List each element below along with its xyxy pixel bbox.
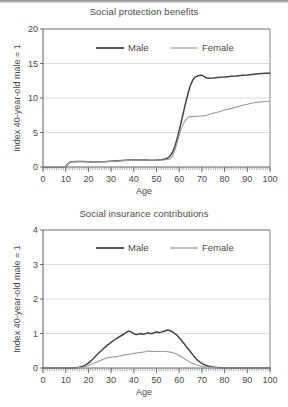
x-tick-label: 70 xyxy=(197,174,207,184)
x-tick-label: 50 xyxy=(151,174,161,184)
scan-artifact-band xyxy=(0,0,288,3)
series-line-male xyxy=(43,330,270,368)
y-tick-label: 20 xyxy=(28,24,38,34)
x-tick-label: 20 xyxy=(83,174,93,184)
x-tick-label: 90 xyxy=(242,375,252,385)
series-line-male xyxy=(43,73,270,167)
x-tick-label: 0 xyxy=(40,174,45,184)
y-tick-label: 1 xyxy=(33,329,38,339)
x-tick-label: 100 xyxy=(262,375,277,385)
legend-label-female: Female xyxy=(202,242,234,253)
legend-label-male: Male xyxy=(128,42,149,53)
y-tick-label: 5 xyxy=(33,128,38,138)
chart-panel-social-insurance-contributions: Social insurance contributions 012340102… xyxy=(0,206,288,407)
y-axis-label-bottom: Index 40-year-old male = 1 xyxy=(12,245,22,352)
x-tick-label: 0 xyxy=(40,375,45,385)
x-tick-label: 40 xyxy=(129,174,139,184)
x-tick-label: 60 xyxy=(174,174,184,184)
x-tick-label: 50 xyxy=(151,375,161,385)
plot-area-top: 051015200102030405060708090100MaleFemale xyxy=(0,4,288,204)
x-tick-label: 90 xyxy=(242,174,252,184)
legend-label-male: Male xyxy=(128,242,149,253)
x-tick-label: 80 xyxy=(220,375,230,385)
x-tick-label: 10 xyxy=(61,174,71,184)
chart-panel-social-protection-benefits: Social protection benefits 0510152001020… xyxy=(0,4,288,204)
y-tick-label: 2 xyxy=(33,294,38,304)
plot-svg-top: 051015200102030405060708090100MaleFemale xyxy=(0,4,288,204)
x-tick-label: 20 xyxy=(83,375,93,385)
x-tick-label: 70 xyxy=(197,375,207,385)
x-axis-label-top: Age xyxy=(0,186,288,196)
y-tick-label: 4 xyxy=(33,225,38,235)
x-tick-label: 10 xyxy=(61,375,71,385)
plot-svg-bottom: 012340102030405060708090100MaleFemale xyxy=(0,206,288,407)
x-tick-label: 40 xyxy=(129,375,139,385)
x-tick-label: 30 xyxy=(106,174,116,184)
series-line-female xyxy=(43,101,270,166)
x-axis-label-bottom: Age xyxy=(0,387,288,397)
y-tick-label: 0 xyxy=(33,363,38,373)
y-tick-label: 15 xyxy=(28,59,38,69)
y-tick-label: 0 xyxy=(33,162,38,172)
x-tick-label: 60 xyxy=(174,375,184,385)
x-tick-label: 30 xyxy=(106,375,116,385)
x-tick-label: 80 xyxy=(220,174,230,184)
y-tick-label: 3 xyxy=(33,260,38,270)
series-line-female xyxy=(43,351,270,368)
y-axis-label-top: Index 40-year-old male = 1 xyxy=(12,44,22,151)
x-tick-label: 100 xyxy=(262,174,277,184)
y-tick-label: 10 xyxy=(28,93,38,103)
plot-area-bottom: 012340102030405060708090100MaleFemale xyxy=(0,206,288,407)
legend-label-female: Female xyxy=(202,42,234,53)
